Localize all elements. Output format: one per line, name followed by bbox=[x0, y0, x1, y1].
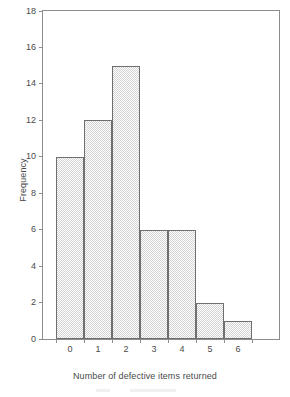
y-axis-tick-label: 16 bbox=[26, 43, 36, 52]
bar-cell bbox=[196, 11, 224, 339]
x-axis-tick-mark bbox=[252, 339, 253, 343]
x-axis-tick-mark bbox=[224, 339, 225, 343]
x-axis-tick: 5 bbox=[196, 339, 224, 365]
bar-cell bbox=[84, 11, 112, 339]
bar bbox=[112, 66, 140, 339]
x-axis-tick: 6 bbox=[224, 339, 252, 365]
bar-cell bbox=[224, 11, 252, 339]
x-axis-tick: 0 bbox=[56, 339, 84, 365]
y-axis-tick-label: 10 bbox=[26, 152, 36, 161]
plot-area: 024681012141618 0123456 bbox=[42, 10, 280, 340]
x-axis-tick-label: 1 bbox=[84, 345, 112, 354]
bar-cell bbox=[140, 11, 168, 339]
x-axis-tick-label: 4 bbox=[168, 345, 196, 354]
bar bbox=[140, 230, 168, 339]
x-axis-tick-mark bbox=[112, 339, 113, 343]
bar bbox=[56, 157, 84, 339]
x-axis-tick-label: 2 bbox=[112, 345, 140, 354]
y-axis-tick-label: 2 bbox=[31, 298, 36, 307]
bar bbox=[168, 230, 196, 339]
y-axis-tick-label: 4 bbox=[31, 262, 36, 271]
x-axis-tick-mark bbox=[84, 339, 85, 343]
y-axis-tick-label: 8 bbox=[31, 189, 36, 198]
scan-artifact bbox=[130, 389, 176, 392]
y-axis-tick-label: 14 bbox=[26, 79, 36, 88]
x-axis-tick-label: 0 bbox=[56, 345, 84, 354]
bar-series bbox=[43, 11, 279, 339]
y-axis-title: Frequency bbox=[18, 110, 28, 250]
x-axis-ticks: 0123456 bbox=[43, 339, 279, 365]
bar bbox=[224, 321, 252, 339]
bar-cell bbox=[168, 11, 196, 339]
x-axis-tick-mark bbox=[140, 339, 141, 343]
x-axis-title: Number of defective items returned bbox=[0, 371, 290, 381]
x-axis-tick-label: 5 bbox=[196, 345, 224, 354]
y-axis-tick-label: 6 bbox=[31, 225, 36, 234]
y-axis-tick-label: 12 bbox=[26, 116, 36, 125]
x-axis-tick-mark bbox=[168, 339, 169, 343]
x-axis-tick-mark bbox=[56, 339, 57, 343]
x-axis-tick: 2 bbox=[112, 339, 140, 365]
x-axis-tick-label: 3 bbox=[140, 345, 168, 354]
scan-artifact bbox=[96, 389, 110, 392]
histogram-figure: Frequency 024681012141618 0123456 Number… bbox=[0, 0, 290, 397]
bar bbox=[196, 303, 224, 339]
x-axis-tick-label: 6 bbox=[224, 345, 252, 354]
bar-cell bbox=[112, 11, 140, 339]
x-axis-tick: 4 bbox=[168, 339, 196, 365]
y-axis-tick-label: 0 bbox=[31, 335, 36, 344]
y-axis-tick-label: 18 bbox=[26, 7, 36, 16]
x-axis-tick: 3 bbox=[140, 339, 168, 365]
bar-cell bbox=[56, 11, 84, 339]
x-axis-tick-mark bbox=[196, 339, 197, 343]
x-axis-tick: 1 bbox=[84, 339, 112, 365]
bar bbox=[84, 120, 112, 339]
